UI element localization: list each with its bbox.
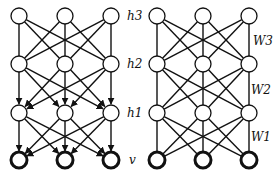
layer-label-h3: h3	[127, 10, 142, 22]
diagram-root: h3 h2 h1 v W3 W2 W1	[0, 0, 273, 177]
node-right-h2-1	[195, 56, 211, 72]
node-left-h2-2	[103, 56, 119, 72]
node-left-h3-2	[103, 8, 119, 24]
node-left-v-1	[57, 152, 73, 168]
weight-label-w3: W3	[253, 35, 273, 47]
node-right-v-0	[149, 152, 165, 168]
layer-label-h1: h1	[127, 107, 142, 119]
node-right-h1-0	[149, 105, 165, 121]
node-left-h3-1	[57, 8, 73, 24]
node-left-v-2	[103, 152, 119, 168]
node-left-h3-0	[11, 8, 27, 24]
node-right-v-2	[241, 152, 257, 168]
node-right-h1-1	[195, 105, 211, 121]
layer-label-h2: h2	[127, 58, 142, 70]
node-left-v-0	[11, 152, 27, 168]
node-right-h2-2	[241, 56, 257, 72]
network-diagram	[0, 0, 273, 177]
weight-label-w1: W1	[251, 131, 271, 143]
layer-label-v: v	[129, 154, 136, 166]
node-left-h1-2	[103, 105, 119, 121]
node-right-h3-1	[195, 8, 211, 24]
node-left-h2-0	[11, 56, 27, 72]
node-right-h2-0	[149, 56, 165, 72]
node-left-h1-1	[57, 105, 73, 121]
node-left-h2-1	[57, 56, 73, 72]
node-right-v-1	[195, 152, 211, 168]
node-right-h3-0	[149, 8, 165, 24]
weight-label-w2: W2	[251, 84, 271, 96]
node-left-h1-0	[11, 105, 27, 121]
node-right-h1-2	[241, 105, 257, 121]
node-right-h3-2	[241, 8, 257, 24]
